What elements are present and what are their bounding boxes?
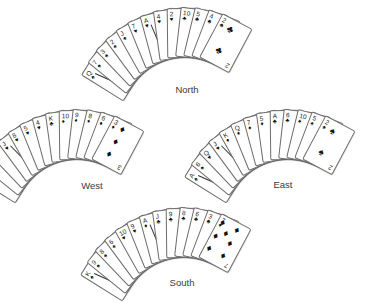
- card-suit-icon: ♥: [133, 28, 139, 35]
- pip-icon: ♦: [219, 250, 228, 261]
- card-suit-icon: ♥: [145, 22, 150, 29]
- card-suit-icon: ♦: [248, 124, 253, 131]
- card-suit-icon: ♠: [102, 252, 108, 259]
- card-rank-bottom: 2: [224, 62, 230, 70]
- card-suit-icon: ♦: [111, 124, 117, 131]
- card-suit-icon: ♠: [122, 35, 128, 42]
- label-east: East: [273, 179, 292, 190]
- card-suit-icon: ♣: [207, 18, 213, 25]
- card-suit-icon: ♣: [169, 216, 173, 222]
- card-rank-bottom: 3: [116, 164, 122, 172]
- card-rank-bottom: 7: [223, 262, 229, 270]
- card-suit-icon: ♠: [199, 165, 206, 171]
- card-suit-icon: ♠: [111, 243, 117, 250]
- label-north: North: [175, 84, 198, 95]
- card-suit-icon: ♦: [74, 117, 78, 123]
- hand-east: A♠6♠Q♥J♥K♦Q♦7♦5♦A♣6♣10♠5♠2♠♠♠2: [288, 222, 289, 223]
- card-suit-icon: ♠: [310, 120, 315, 127]
- card-rank-bottom: 2: [327, 164, 333, 172]
- card-suit-icon: ♣: [181, 215, 186, 221]
- card-suit-icon: ♣: [219, 22, 225, 29]
- card-suit-icon: ♣: [182, 15, 187, 21]
- card-suit-icon: ♣: [273, 118, 277, 124]
- card-suit-icon: ♦: [62, 118, 65, 124]
- pip-icon: ♣: [214, 45, 224, 57]
- card-suit-icon: ♥: [37, 124, 42, 131]
- pip-icon: ♣: [225, 24, 235, 36]
- card-suit-icon: ♠: [95, 263, 102, 269]
- card-suit-icon: ♦: [99, 120, 104, 127]
- card-suit-icon: ♥: [121, 234, 127, 241]
- card-suit-icon: ♣: [195, 16, 200, 23]
- pip-icon: ♦: [211, 230, 220, 241]
- card-suit-icon: ♥: [132, 228, 138, 235]
- card-suit-icon: ♦: [260, 120, 264, 126]
- card-suit-icon: ♦: [236, 130, 241, 137]
- card-suit-icon: ♠: [322, 124, 328, 131]
- card-suit-icon: ♥: [14, 136, 20, 143]
- pip-icon: ♠: [328, 126, 337, 137]
- pip-icon: ♦: [232, 225, 241, 236]
- hand-west: 4♠3♠K♥J♥8♥5♥4♥K♣10♦9♦8♦6♦3♦♦♦♦3: [77, 222, 78, 223]
- card-suit-icon: ♠: [96, 63, 103, 69]
- card-suit-icon: ♥: [25, 130, 31, 137]
- card-suit-icon: ♥: [157, 18, 161, 24]
- pip-icon: ♦: [118, 124, 127, 135]
- card-suit-icon: ♣: [49, 120, 54, 126]
- card-suit-icon: ♥: [170, 16, 174, 22]
- hand-north: Q♠7♠3♠2♠J♠7♥A♥4♥2♥10♣5♣4♣2♣♣♣2: [185, 120, 186, 121]
- card-suit-icon: ♥: [206, 154, 213, 161]
- pip-icon: ♦: [105, 149, 114, 160]
- card-suit-icon: ♥: [0, 154, 2, 161]
- label-west: West: [81, 180, 102, 191]
- pip-icon: ♦: [205, 243, 214, 254]
- card-suit-icon: ♣: [206, 218, 212, 225]
- card-suit-icon: ♣: [285, 117, 290, 123]
- card-suit-icon: ♠: [88, 274, 95, 280]
- card-suit-icon: ♦: [144, 222, 149, 229]
- card-suit-icon: ♠: [298, 118, 303, 125]
- card-suit-icon: ♦: [87, 118, 91, 125]
- pip-icon: ♦: [225, 238, 234, 249]
- pip-icon: ♦: [111, 136, 120, 147]
- card-suit-icon: ♦: [225, 137, 231, 144]
- card-suit-icon: ♠: [103, 52, 109, 59]
- card-suit-icon: ♠: [89, 74, 96, 80]
- card-suit-icon: ♣: [194, 216, 199, 223]
- card-suit-icon: ♣: [156, 218, 161, 224]
- pip-icon: ♠: [317, 147, 326, 158]
- card-suit-icon: ♠: [192, 176, 199, 182]
- card-suit-icon: ♠: [112, 43, 118, 50]
- label-south: South: [170, 277, 195, 288]
